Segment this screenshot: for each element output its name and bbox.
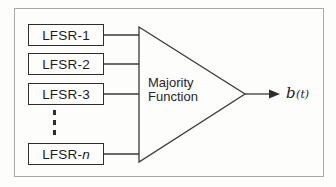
lfsr-n-label-prefix: LFSR- [42,147,82,162]
lfsr-1-box: LFSR-1 [28,24,104,46]
lfsr-3-label-prefix: LFSR- [42,87,82,102]
lfsr-3-box: LFSR-3 [28,83,104,105]
lfsr-2-box: LFSR-2 [28,53,104,75]
majority-function-label-line1: Majority [148,76,198,90]
lfsr-2-label-prefix: LFSR- [42,57,82,72]
majority-function-label-line2: Function [148,90,198,104]
lfsr-2-label-suffix: 2 [82,57,90,72]
figure-canvas: LFSR-1 LFSR-2 LFSR-3 LFSR-n Majority Fun… [0,0,336,187]
output-variable: b [286,84,296,102]
lfsr-n-box: LFSR-n [28,143,104,165]
lfsr-1-label-suffix: 1 [82,28,90,43]
output-argument: (t) [296,88,309,101]
lfsr-1-label-prefix: LFSR- [42,28,82,43]
lfsr-n-label-suffix: n [82,147,90,162]
lfsr-3-label-suffix: 3 [82,87,90,102]
majority-function-label: Majority Function [148,76,198,104]
vertical-ellipsis-dots [53,110,56,140]
output-arrowhead-icon [269,90,280,99]
output-signal-label: b (t) [286,84,309,102]
